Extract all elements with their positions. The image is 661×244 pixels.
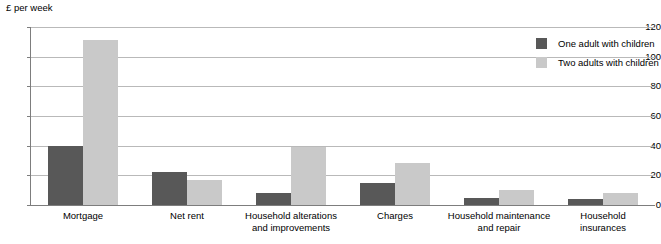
bar-group [152,27,222,205]
gridline [31,116,655,117]
legend-label: Two adults with children [558,57,659,68]
bar [568,199,603,205]
gridline [31,86,655,87]
x-tick-label: Charges [343,210,447,222]
bar-group [464,27,534,205]
bar [499,190,534,205]
bar [464,198,499,205]
bar [395,163,430,205]
x-tick-label: Net rent [135,210,239,222]
bar [256,193,291,205]
bar [83,40,118,205]
bar [360,183,395,205]
legend-label: One adult with children [558,38,655,49]
gridline [31,27,655,28]
bar-group [48,27,118,205]
legend-swatch-icon [536,38,547,49]
gridline [31,146,655,147]
bar-chart: £ per week 020406080100120 MortgageNet r… [0,0,661,244]
x-tick-label: Householdinsurances [551,210,655,233]
x-tick-label: Mortgage [31,210,135,222]
bar [291,147,326,205]
legend: One adult with childrenTwo adults with c… [536,34,659,72]
bar [603,193,638,205]
gridline [31,205,655,206]
bar-group [360,27,430,205]
gridline [31,175,655,176]
legend-swatch-icon [536,57,547,68]
x-tick-label: Household maintenanceand repair [447,210,551,233]
bar-group [256,27,326,205]
bar [152,172,187,205]
y-axis-unit-label: £ per week [6,2,52,13]
x-tick-label: Household alterationsand improvements [239,210,343,233]
bar [187,180,222,205]
legend-item: One adult with children [536,34,659,53]
bar [48,146,83,205]
legend-item: Two adults with children [536,53,659,72]
